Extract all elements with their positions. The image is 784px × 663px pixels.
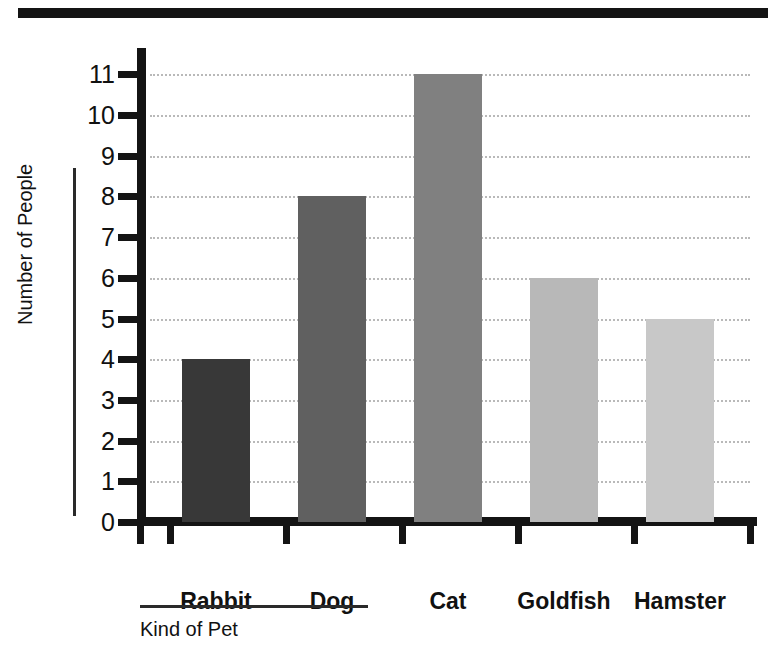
y-axis-tick: [118, 71, 137, 78]
y-axis-title: Number of People: [14, 325, 175, 348]
x-axis-tick: [631, 522, 638, 544]
bar-hamster: [646, 319, 714, 522]
x-axis-tick: [283, 522, 290, 544]
y-axis-tick-label: 2: [101, 428, 115, 453]
x-axis-tick: [747, 522, 754, 544]
bar-chart: 01234567891011RabbitDogCatGoldfishHamste…: [0, 0, 784, 663]
bar-rabbit: [182, 359, 250, 522]
bar-dog: [298, 196, 366, 522]
plot-area: 01234567891011RabbitDogCatGoldfishHamste…: [137, 50, 755, 522]
y-axis-tick: [118, 275, 137, 282]
bar-cat: [414, 74, 482, 522]
y-axis-title-text: Number of People: [14, 164, 37, 325]
y-axis-tick-label: 1: [101, 469, 115, 494]
x-axis-tick: [515, 522, 522, 544]
y-axis-tick: [118, 438, 137, 445]
y-axis-tick: [118, 153, 137, 160]
x-axis-title-rule: [140, 605, 368, 608]
x-axis-label-cat: Cat: [429, 588, 466, 615]
y-axis-tick: [118, 234, 137, 241]
y-axis-tick-label: 9: [101, 143, 115, 168]
y-axis-tick-label: 11: [89, 62, 115, 87]
y-axis-tick: [118, 356, 137, 363]
y-axis-tick-label: 4: [101, 347, 115, 372]
y-axis-tick: [118, 316, 137, 323]
y-axis-tick-label: 6: [101, 265, 115, 290]
y-axis-tick-label: 8: [101, 184, 115, 209]
x-axis-title-text: Kind of Pet: [140, 618, 238, 641]
x-axis-label-rabbit: Rabbit: [180, 588, 252, 615]
y-axis-tick-label: 10: [87, 103, 115, 128]
y-axis-tick: [118, 397, 137, 404]
x-axis-label-dog: Dog: [310, 588, 355, 615]
x-axis-tick: [399, 522, 406, 544]
x-axis-tick: [137, 522, 144, 544]
y-axis-tick-label: 0: [101, 510, 115, 535]
y-axis-tick: [118, 478, 137, 485]
y-axis-tick-label: 7: [101, 225, 115, 250]
x-axis-label-hamster: Hamster: [634, 588, 726, 615]
y-axis-tick-label: 3: [101, 387, 115, 412]
y-axis-tick: [118, 112, 137, 119]
y-axis-title-rule: [73, 168, 76, 516]
chart-page: 01234567891011RabbitDogCatGoldfishHamste…: [0, 0, 784, 663]
bar-goldfish: [530, 278, 598, 522]
y-axis-tick: [118, 519, 137, 526]
x-axis-tick: [167, 522, 174, 544]
x-axis-label-goldfish: Goldfish: [517, 588, 610, 615]
y-axis-tick: [118, 193, 137, 200]
